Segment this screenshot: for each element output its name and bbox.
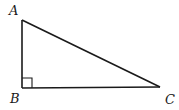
- right-angle-marker: [22, 78, 32, 88]
- edge-bc: [22, 87, 160, 88]
- vertex-label-c: C: [165, 92, 175, 107]
- triangle-edges: [22, 20, 160, 88]
- edge-ca: [22, 20, 160, 87]
- triangle-diagram: A B C: [0, 0, 179, 110]
- vertex-label-b: B: [9, 91, 20, 106]
- vertex-label-a: A: [8, 3, 18, 18]
